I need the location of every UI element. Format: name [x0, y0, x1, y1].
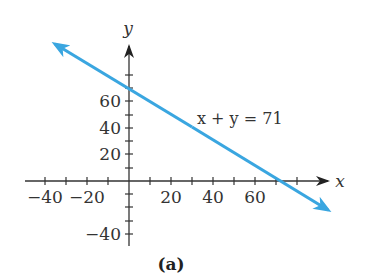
y-tick-label: 40	[99, 118, 121, 138]
x-tick-label: 40	[202, 187, 224, 207]
series-line-x-plus-y-eq-71	[55, 44, 328, 210]
x-tick-label: 60	[244, 187, 266, 207]
equation-label: x + y = 71	[197, 109, 283, 128]
figure-caption: (a)	[157, 254, 184, 274]
y-tick-label: −40	[85, 224, 121, 244]
y-axis-label: y	[122, 18, 133, 38]
y-axis: 60 40 20 −40 y	[85, 18, 133, 246]
x-axis-label: x	[335, 171, 345, 191]
x-tick-label: −20	[69, 187, 105, 207]
x-tick-label: 20	[160, 187, 182, 207]
x-tick-label: −40	[27, 187, 63, 207]
chart: −40 −20 20 40 60 x 60 40 20 −40 y	[0, 0, 366, 279]
x-axis: −40 −20 20 40 60 x	[25, 171, 345, 207]
y-tick-label: 20	[99, 144, 121, 164]
y-tick-label: 60	[99, 91, 121, 111]
